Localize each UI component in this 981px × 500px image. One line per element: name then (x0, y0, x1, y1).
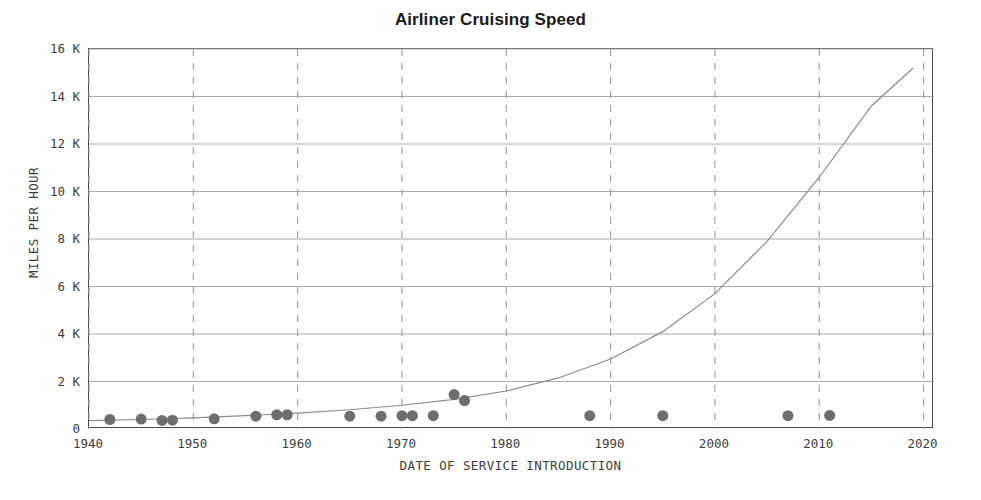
x-axis-tick-label: 1990 (595, 436, 625, 451)
x-axis-tick-label: 2020 (908, 436, 938, 451)
data-point (282, 409, 293, 420)
y-axis-tick-label: 10 K (50, 183, 80, 198)
data-point (396, 410, 407, 421)
x-axis-tick-labels: 194019501960197019801990200020102020 (88, 436, 933, 460)
data-point (449, 389, 460, 400)
data-point (157, 415, 168, 426)
y-axis-tick-label: 12 K (50, 136, 80, 151)
data-point (104, 414, 115, 425)
y-axis-tick-label: 14 K (50, 88, 80, 103)
x-axis-tick-label: 2010 (803, 436, 833, 451)
x-axis-tick-label: 1940 (73, 436, 103, 451)
data-point (584, 410, 595, 421)
x-axis-tick-label: 1950 (177, 436, 207, 451)
x-axis-tick-label: 1980 (490, 436, 520, 451)
data-point (136, 414, 147, 425)
y-axis-tick-label: 2 K (57, 373, 80, 388)
x-axis-tick-label: 1970 (386, 436, 416, 451)
data-point (407, 410, 418, 421)
data-point (167, 415, 178, 426)
chart-container: Airliner Cruising Speed 02 K4 K6 K8 K10 … (0, 0, 981, 500)
x-axis-tick-label: 1960 (282, 436, 312, 451)
chart-title: Airliner Cruising Speed (0, 10, 981, 30)
y-axis-tick-label: 6 K (57, 278, 80, 293)
y-axis-tick-label: 16 K (50, 41, 80, 56)
y-axis-tick-label: 4 K (57, 326, 80, 341)
data-point (344, 411, 355, 422)
data-point (250, 411, 261, 422)
x-axis-label: DATE OF SERVICE INTRODUCTION (88, 458, 933, 473)
data-point (376, 411, 387, 422)
data-point (459, 395, 470, 406)
y-axis-label: MILES PER HOUR (26, 138, 41, 308)
data-point (782, 410, 793, 421)
data-point (271, 409, 282, 420)
data-points (89, 49, 932, 427)
data-point (657, 410, 668, 421)
y-axis-tick-label: 0 (72, 421, 80, 436)
data-point (824, 410, 835, 421)
y-axis-tick-label: 8 K (57, 231, 80, 246)
x-axis-tick-label: 2000 (699, 436, 729, 451)
plot-area (88, 48, 933, 428)
data-point (428, 410, 439, 421)
data-point (209, 413, 220, 424)
